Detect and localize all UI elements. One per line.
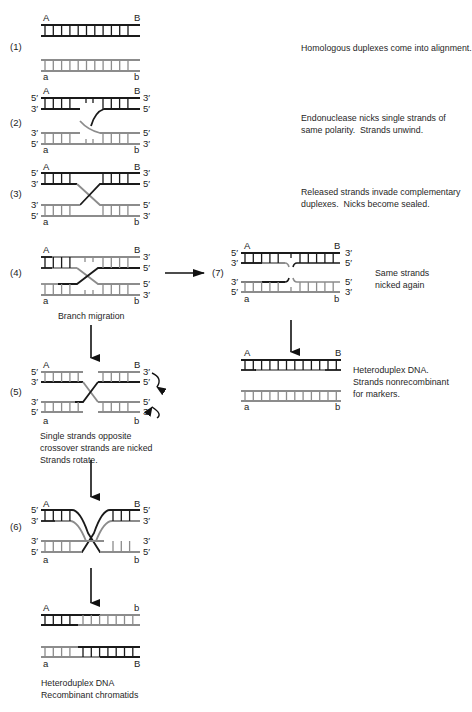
step7-marker-bottom-left: a [244, 293, 250, 304]
rotate-arrow-bottom [152, 407, 159, 418]
step6-end-left-3: 5′ [31, 546, 38, 557]
step4-marker-top-left: A [43, 244, 50, 255]
strand-A-3to5-right-unwound [91, 109, 140, 126]
step3-end-right-0: 3′ [143, 167, 150, 178]
strand-b-inner-right [293, 278, 340, 282]
step6-end-right-1: 3′ [143, 515, 150, 526]
caption-step-7: Same strands nicked again [375, 267, 429, 291]
step2-end-right-1: 5′ [143, 103, 150, 114]
caption-step-3: Released strands invade complementary du… [301, 186, 460, 210]
step5-end-left-3: 5′ [31, 406, 38, 417]
nick-end [285, 278, 289, 282]
step1-marker-bottom-right: b [134, 71, 139, 82]
step4-end-right-3: 3′ [143, 289, 150, 300]
step3-end-right-3: 3′ [143, 210, 150, 221]
strand-B-to-a [41, 510, 140, 552]
recombinant-marker-top-left: A [43, 602, 50, 613]
step3-label: (3) [10, 188, 22, 199]
step6-marker-top-left: A [43, 498, 50, 509]
recombinant-marker-bottom-right: B [134, 658, 140, 669]
step2-end-right-0: 3′ [143, 92, 150, 103]
recombinant-marker-top-right: b [134, 602, 139, 613]
step5-marker-top-left: A [43, 359, 50, 370]
step3-end-left-2: 3′ [31, 199, 38, 210]
step2-end-left-0: 5′ [31, 92, 38, 103]
step3-end-left-3: 5′ [31, 210, 38, 221]
nonrecombinant-marker-top-left: A [244, 347, 251, 358]
strand-crossing-dark [75, 382, 98, 402]
step4-marker-top-right: B [134, 244, 140, 255]
step7-marker-top-left: A [244, 240, 251, 251]
step2-marker-bottom-right: b [134, 144, 139, 155]
rotate-arrow-top [152, 373, 159, 387]
caption-step-5: Single strands opposite crossover strand… [40, 430, 152, 466]
step4-marker-bottom-left: a [43, 295, 49, 306]
step4-end-right-1: 5′ [143, 262, 150, 273]
step6-marker-bottom-right: b [134, 554, 139, 565]
step5-label: (5) [10, 386, 22, 397]
step7-marker-bottom-right: b [334, 293, 339, 304]
step5-marker-top-right: B [134, 359, 140, 370]
strand-a-3to5-right-unwound [80, 121, 140, 133]
step7-end-left-3: 5′ [231, 286, 238, 297]
strand-crossing-dark [58, 268, 140, 284]
nonrecombinant-marker-bottom-right: b [335, 401, 340, 412]
step5-marker-bottom-right: b [134, 415, 139, 426]
caption-step-2: Endonuclease nicks single strands of sam… [301, 112, 446, 136]
step2-end-left-3: 5′ [31, 138, 38, 149]
step2-end-left-2: 3′ [31, 127, 38, 138]
step2-label: (2) [10, 117, 22, 128]
step2-end-right-2: 5′ [143, 127, 150, 138]
step3-marker-top-right: B [134, 161, 140, 172]
strand-B-inner-right [293, 263, 340, 267]
step4-marker-bottom-right: b [134, 295, 139, 306]
step5-end-right-3: 3′ [143, 406, 150, 417]
step4-end-right-2: 5′ [143, 278, 150, 289]
step7-end-right-1: 5′ [345, 257, 352, 268]
step1-marker-bottom-left: a [43, 71, 49, 82]
nick-end [285, 263, 289, 267]
step1-label: (1) [10, 41, 22, 52]
step1-marker-top-left: A [43, 12, 50, 23]
caption-step-1: Homologous duplexes come into alignment. [301, 42, 472, 54]
strand-crossing-light [77, 184, 140, 205]
strand-crossing-dark [80, 184, 140, 205]
step3-end-right-2: 5′ [143, 199, 150, 210]
step5-marker-bottom-left: a [43, 415, 49, 426]
step5-end-right-1: 5′ [143, 376, 150, 387]
step7-marker-top-right: B [334, 240, 340, 251]
step5-end-left-1: 3′ [31, 376, 38, 387]
step2-marker-bottom-left: a [43, 144, 49, 155]
step7-end-left-1: 3′ [231, 257, 238, 268]
step6-end-right-3: 5′ [143, 546, 150, 557]
step3-marker-bottom-right: b [134, 216, 139, 227]
nonrecombinant-marker-bottom-left: a [244, 401, 250, 412]
step6-end-left-0: 5′ [31, 504, 38, 515]
step3-end-left-0: 5′ [31, 167, 38, 178]
step4-label: (4) [10, 267, 22, 278]
step6-end-left-2: 3′ [31, 535, 38, 546]
caption-nonrecombinant: Heteroduplex DNA. Strands nonrecombinant… [353, 364, 449, 400]
caption-step-4: Branch migration [58, 310, 125, 322]
step2-marker-top-right: B [134, 85, 140, 96]
step2-end-left-1: 3′ [31, 103, 38, 114]
caption-recombinant: Heteroduplex DNA Recombinant chromatids [41, 677, 138, 701]
step1-marker-top-right: B [134, 12, 140, 23]
step2-end-right-3: 3′ [143, 138, 150, 149]
strand-A-to-b [41, 510, 140, 552]
step6-label: (6) [10, 521, 22, 532]
step3-end-right-1: 5′ [143, 178, 150, 189]
step7-label: (7) [212, 267, 224, 278]
step4-end-right-0: 3′ [143, 251, 150, 262]
step3-marker-bottom-left: a [43, 216, 49, 227]
step3-marker-top-left: A [43, 161, 50, 172]
step2-marker-top-left: A [43, 85, 50, 96]
step7-end-right-3: 3′ [345, 286, 352, 297]
step6-end-left-1: 3′ [31, 515, 38, 526]
step6-end-right-2: 3′ [143, 535, 150, 546]
step3-end-left-1: 3′ [31, 178, 38, 189]
recombinant-marker-bottom-left: a [43, 658, 49, 669]
step6-end-right-0: 5′ [143, 504, 150, 515]
step6-marker-top-right: B [134, 498, 140, 509]
